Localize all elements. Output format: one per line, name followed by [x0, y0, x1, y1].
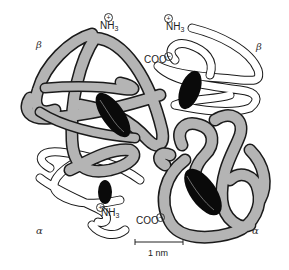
minus-charge-icon: − [156, 213, 165, 222]
label-nh3-bottom: NH3 [101, 208, 119, 219]
scale-bar [135, 239, 183, 245]
heme-bottom-left [98, 180, 112, 204]
minus-charge-icon: − [164, 52, 173, 61]
beta-chain-unshaded [158, 28, 259, 111]
label-alpha-bottom-left: α [36, 226, 43, 236]
scale-bar-label: 1 nm [148, 249, 168, 258]
label-beta-top-left: β [36, 40, 42, 50]
label-beta-top-right: β [256, 42, 262, 52]
label-nh3-top-left: NH3 [100, 21, 118, 32]
alpha-chain-shaded [160, 116, 265, 238]
label-alpha-bottom-right: α [252, 226, 259, 236]
label-nh3-top-right: NH3 [166, 22, 184, 33]
hemoglobin-diagram [0, 0, 289, 270]
